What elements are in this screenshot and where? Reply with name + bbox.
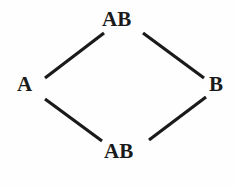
node-label-left: A xyxy=(17,74,32,95)
node-label-right: B xyxy=(209,74,223,95)
edge-top-to-right xyxy=(143,33,204,78)
lattice-diagram: AB A B AB xyxy=(0,0,237,186)
edge-bottom-to-right xyxy=(149,97,206,140)
edge-left-to-top xyxy=(45,33,104,78)
node-label-bottom: AB xyxy=(104,141,134,162)
node-label-top: AB xyxy=(102,9,132,30)
edge-left-to-bottom xyxy=(45,99,102,141)
